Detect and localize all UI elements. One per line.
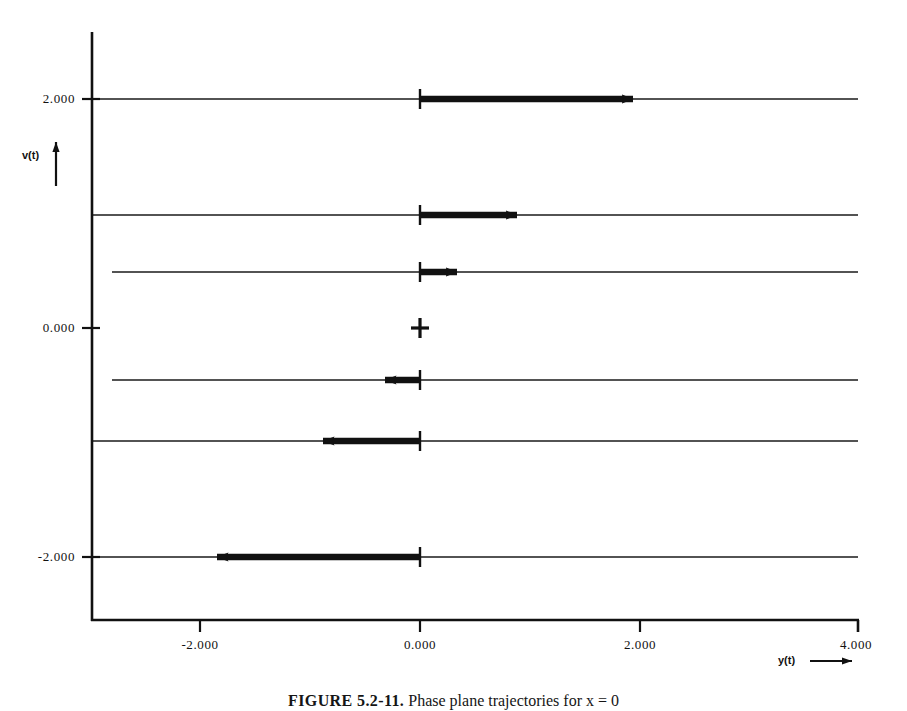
x-tick-label-0000: 0.000 bbox=[404, 637, 436, 653]
axis-direction-arrows bbox=[56, 142, 852, 661]
figure-container: 2.000 0.000 -2.000 -2.000 0.000 2.000 4.… bbox=[0, 0, 907, 711]
figure-caption-lead: FIGURE 5.2-11. bbox=[288, 692, 404, 709]
phase-plane-plot bbox=[0, 0, 907, 711]
y-tick-label-neg2000: -2.000 bbox=[5, 549, 75, 565]
x-tick-label-4000: 4.000 bbox=[840, 637, 872, 653]
figure-caption: FIGURE 5.2-11. Phase plane trajectories … bbox=[0, 688, 907, 711]
x-axis-label: y(t) bbox=[778, 654, 795, 666]
x-tick-label-2000: 2.000 bbox=[624, 637, 656, 653]
y-axis bbox=[82, 32, 100, 621]
equilibrium-plus-marker bbox=[411, 318, 429, 338]
x-tick-label-neg2000: -2.000 bbox=[181, 637, 218, 653]
gridlines bbox=[92, 99, 858, 557]
figure-caption-body: Phase plane trajectories for x = 0 bbox=[408, 692, 619, 709]
y-tick-label-2000: 2.000 bbox=[10, 91, 75, 107]
y-axis-label: v(t) bbox=[22, 149, 39, 161]
y-tick-label-0000: 0.000 bbox=[10, 320, 75, 336]
x-axis bbox=[91, 620, 859, 632]
